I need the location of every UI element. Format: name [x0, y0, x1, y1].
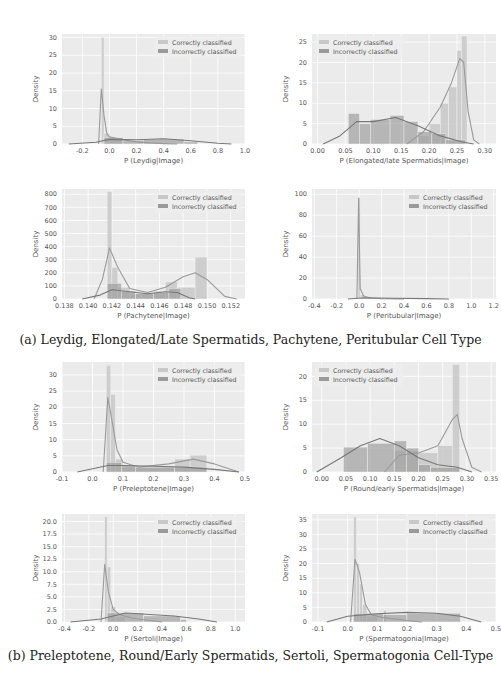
y-tick-label: 20	[299, 373, 307, 381]
x-tick-label: -0.4	[308, 302, 321, 310]
y-axis-label: Density	[282, 76, 290, 103]
y-tick-label: 400	[45, 243, 57, 251]
x-tick-label: 0.5	[491, 625, 501, 633]
x-tick-label: 0.5	[240, 475, 250, 483]
x-axis-label: P (Peritubular|Image)	[367, 312, 442, 320]
legend: Correctly classifiedIncorrectly classifi…	[315, 36, 403, 58]
y-tick-label: 15	[49, 420, 57, 428]
legend-swatch-incorrect	[158, 377, 168, 381]
legend-swatch-correct	[158, 520, 168, 524]
x-tick-label: 0.30	[460, 475, 474, 483]
legend: Correctly classifiedIncorrectly classifi…	[154, 516, 242, 538]
x-tick-label: 0.0	[354, 302, 364, 310]
x-tick-label: 0.00	[314, 475, 328, 483]
caption-b: (b) Preleptotene, Round/Early Spermatids…	[0, 648, 501, 663]
y-tick-label: 15	[299, 79, 307, 87]
legend-label-incorrect: Incorrectly classified	[172, 376, 237, 384]
legend-label-incorrect: Incorrectly classified	[333, 48, 398, 56]
y-tick-label: 17.5	[43, 530, 57, 538]
x-tick-label: 0.15	[387, 475, 401, 483]
legend-label-incorrect: Incorrectly classified	[172, 528, 237, 536]
y-axis-label: Density	[282, 404, 290, 431]
legend-label-incorrect: Incorrectly classified	[333, 376, 398, 384]
x-tick-label: 0.0	[342, 625, 352, 633]
y-tick-label: 40	[299, 253, 307, 261]
x-tick-label: 0.150	[198, 302, 217, 310]
x-tick-label: 0.148	[174, 302, 193, 310]
x-tick-label: 0.4	[158, 147, 168, 155]
x-tick-label: -0.4	[58, 625, 71, 633]
x-tick-label: 0.4	[209, 475, 219, 483]
x-tick-label: 0.05	[339, 475, 353, 483]
y-tick-label: 800	[45, 190, 57, 198]
x-tick-label: 0.2	[402, 625, 412, 633]
y-tick-label: 0.0	[47, 618, 57, 626]
legend-swatch-incorrect	[158, 529, 168, 533]
x-tick-label: 0.10	[363, 475, 377, 483]
x-tick-label: 0.6	[186, 147, 196, 155]
x-tick-label: 0.4	[399, 302, 409, 310]
y-tick-label: 5	[53, 122, 57, 130]
legend-label-incorrect: Incorrectly classified	[423, 203, 488, 211]
y-tick-label: 10	[49, 105, 57, 113]
x-tick-label: 0.3	[179, 475, 189, 483]
legend-swatch-correct	[319, 368, 329, 372]
x-tick-label: 0.144	[126, 302, 145, 310]
y-tick-label: 0	[53, 140, 57, 148]
x-tick-label: 0.20	[411, 475, 425, 483]
x-tick-label: 0.8	[206, 625, 216, 633]
y-tick-label: 5	[303, 604, 307, 612]
x-tick-label: 0.140	[79, 302, 98, 310]
y-tick-label: 20	[49, 69, 57, 77]
x-axis-label: P (Round/early Spermatids|Image)	[344, 485, 465, 493]
x-tick-label: 0.2	[148, 475, 158, 483]
y-tick-label: 5	[303, 120, 307, 128]
x-tick-label: 0.4	[157, 625, 167, 633]
y-axis-label: Density	[32, 231, 40, 258]
y-tick-label: 30	[49, 34, 57, 42]
y-tick-label: 80	[299, 211, 307, 219]
legend-label-incorrect: Incorrectly classified	[172, 48, 237, 56]
legend-swatch-correct	[409, 520, 419, 524]
y-axis-label: Density	[32, 555, 40, 582]
legend: Correctly classifiedIncorrectly classifi…	[315, 364, 403, 386]
y-tick-label: 10	[299, 420, 307, 428]
x-tick-label: 0.0	[108, 625, 118, 633]
legend-label-correct: Correctly classified	[172, 39, 232, 47]
x-tick-label: -0.1	[312, 625, 325, 633]
legend-swatch-incorrect	[319, 49, 329, 53]
y-tick-label: 25	[49, 387, 57, 395]
y-tick-label: 30	[49, 371, 57, 379]
y-tick-label: 20	[299, 59, 307, 67]
y-tick-label: 25	[299, 38, 307, 46]
chart-round-early-spermatids: 0.000.050.100.150.200.250.300.3505101520…	[250, 348, 501, 498]
legend-label-incorrect: Incorrectly classified	[423, 528, 488, 536]
y-tick-label: 20.0	[43, 518, 57, 526]
x-tick-label: -0.1	[56, 475, 69, 483]
x-axis-label: P (Preleptotene|Image)	[113, 485, 194, 493]
y-tick-label: 10	[299, 99, 307, 107]
x-tick-label: 0.20	[422, 147, 436, 155]
x-tick-label: 0.152	[221, 302, 240, 310]
y-tick-label: 100	[45, 282, 57, 290]
y-tick-label: 20	[299, 560, 307, 568]
x-tick-label: 0.2	[376, 302, 386, 310]
y-tick-label: 100	[295, 190, 307, 198]
x-tick-label: 0.2	[131, 147, 141, 155]
y-tick-label: 15	[299, 574, 307, 582]
y-tick-label: 0	[303, 295, 307, 303]
legend: Correctly classifiedIncorrectly classifi…	[405, 191, 493, 213]
y-tick-label: 60	[299, 232, 307, 240]
y-tick-label: 0	[303, 618, 307, 626]
y-tick-label: 0	[53, 468, 57, 476]
chart-leydig: -0.20.00.20.40.60.81.0051015202530P (Ley…	[0, 20, 250, 170]
y-tick-label: 20	[49, 403, 57, 411]
x-axis-label: P (Elongated/late Spermatids|Image)	[339, 157, 468, 165]
caption-a: (a) Leydig, Elongated/Late Spermatids, P…	[0, 332, 501, 347]
legend-label-correct: Correctly classified	[172, 367, 232, 375]
y-tick-label: 700	[45, 204, 57, 212]
x-axis-label: P (Sertoli|Image)	[124, 635, 183, 643]
y-tick-label: 10.0	[43, 568, 57, 576]
x-tick-label: 0.30	[478, 147, 492, 155]
y-tick-label: 200	[45, 269, 57, 277]
